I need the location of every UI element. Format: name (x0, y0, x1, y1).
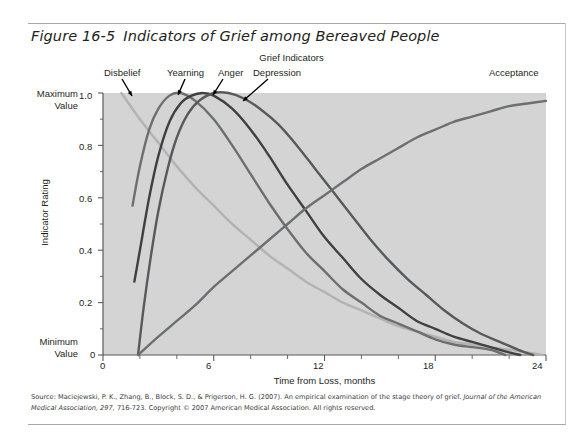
source-line1-a: Source: Maciejewski, P. K., Zhang, B., B… (31, 393, 463, 401)
plot-background (103, 93, 546, 355)
source-volume: Association, 297, (58, 404, 114, 412)
figure-container: Figure 16-5Indicators of Grief among Ber… (0, 0, 583, 442)
source-citation: Source: Maciejewski, P. K., Zhang, B., B… (31, 392, 553, 413)
chart-plot-area (0, 0, 583, 442)
source-line2-b: 716-723. Copyright © 2007 American Medic… (115, 404, 376, 412)
